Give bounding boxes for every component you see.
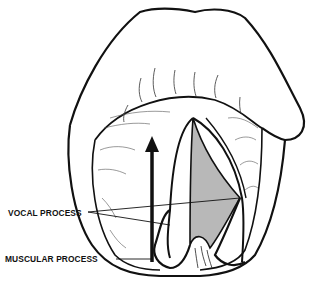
mucosa-texture	[98, 111, 258, 248]
epiglottis-outline	[70, 9, 304, 140]
interarytenoid-folds	[195, 246, 212, 268]
vocal-process-label: VOCAL PROCESS	[8, 208, 82, 218]
vocal-fold-left	[168, 118, 193, 258]
upward-arrow	[145, 136, 159, 262]
epiglottis-hatching	[124, 68, 241, 122]
arytenoid-left	[154, 210, 190, 268]
muscular-process-label: MUSCULAR PROCESS	[5, 254, 98, 264]
vestibule-arc	[95, 97, 262, 140]
vestibule-wall-left	[92, 140, 160, 270]
larynx-diagram	[0, 0, 311, 281]
